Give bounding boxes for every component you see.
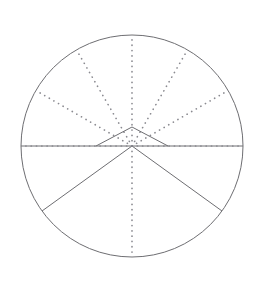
figure-background [0, 0, 257, 294]
geometric-circle-diagram [0, 0, 257, 294]
